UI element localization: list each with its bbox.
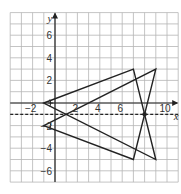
x-tick-label: 4 xyxy=(95,103,101,114)
x-axis-label: x xyxy=(173,110,179,122)
y-tick-label: −2 xyxy=(41,121,53,132)
grid xyxy=(10,13,178,183)
y-tick-label: 6 xyxy=(46,30,52,41)
x-axis-arrow-icon xyxy=(172,100,178,106)
y-tick-label: 2 xyxy=(46,75,52,86)
reflection-diagram: −224610642−2−4−6xy xyxy=(0,0,181,194)
x-tick-label: 2 xyxy=(73,103,79,114)
x-tick-label: 6 xyxy=(117,103,123,114)
intersection-point xyxy=(142,112,146,116)
x-tick-label: −2 xyxy=(25,103,37,114)
x-tick-label: 10 xyxy=(159,103,171,114)
y-axis-label: y xyxy=(47,12,53,24)
y-tick-label: −6 xyxy=(41,166,53,177)
y-tick-label: −4 xyxy=(41,143,53,154)
y-tick-label: 4 xyxy=(46,53,52,64)
axes xyxy=(10,13,178,183)
y-axis-arrow-icon xyxy=(52,13,58,19)
